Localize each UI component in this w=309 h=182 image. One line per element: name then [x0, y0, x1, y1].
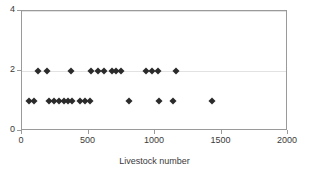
data-point — [169, 97, 176, 104]
y-tick-label-4: 4 — [0, 5, 15, 14]
x-axis-title: Livestock number — [0, 156, 309, 166]
x-tick-label-1000: 1000 — [132, 136, 176, 145]
x-tick-label-1500: 1500 — [199, 136, 243, 145]
x-tick-label-0: 0 — [0, 136, 43, 145]
y-tick-label-0: 0 — [0, 125, 15, 134]
data-point — [44, 67, 51, 74]
data-point — [68, 97, 75, 104]
plot-area — [21, 10, 287, 130]
gridline-y-4 — [22, 11, 286, 12]
x-tick-mark-500 — [88, 130, 89, 134]
y-tick-label-2: 2 — [0, 65, 15, 74]
x-tick-mark-0 — [21, 130, 22, 134]
data-point — [68, 67, 75, 74]
data-point — [126, 97, 133, 104]
x-tick-mark-1500 — [221, 130, 222, 134]
x-tick-mark-1000 — [154, 130, 155, 134]
data-point — [30, 97, 37, 104]
scatter-chart: Livestock number 0240500100015002000 — [0, 0, 309, 182]
data-point — [154, 67, 161, 74]
x-tick-mark-2000 — [287, 130, 288, 134]
x-tick-label-2000: 2000 — [265, 136, 309, 145]
data-point — [209, 97, 216, 104]
data-point — [155, 97, 162, 104]
x-tick-label-500: 500 — [66, 136, 110, 145]
data-point — [118, 67, 125, 74]
y-tick-mark-2 — [17, 70, 21, 71]
data-point — [101, 67, 108, 74]
data-point — [172, 67, 179, 74]
y-tick-mark-4 — [17, 10, 21, 11]
data-point — [86, 97, 93, 104]
data-point — [34, 67, 41, 74]
